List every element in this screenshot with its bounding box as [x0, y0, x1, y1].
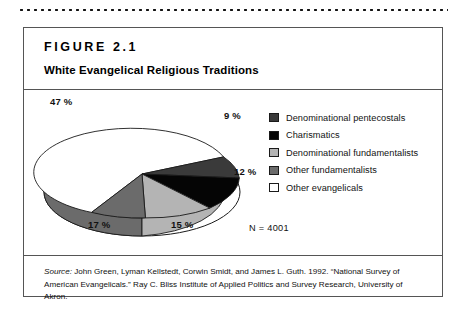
legend-label: Other evangelicals	[286, 183, 363, 193]
legend-swatch-icon	[269, 183, 279, 192]
pie-label-47: 47 %	[50, 96, 72, 107]
pie-label-15: 15 %	[171, 219, 193, 230]
source-area: Source: John Green, Lyman Kellstedt, Cor…	[24, 256, 442, 297]
legend-label: Denominational fundamentalists	[286, 148, 418, 158]
figure-number: FIGURE 2.1	[44, 40, 138, 54]
legend-label: Denominational pentecostals	[286, 113, 405, 123]
legend-item-other-evangelicals: Other evangelicals	[269, 180, 449, 195]
pie-label-9: 9 %	[224, 110, 241, 121]
pie-label-12: 12 %	[234, 166, 256, 177]
pie-top-face	[34, 128, 240, 218]
legend-item-charismatics: Charismatics	[269, 128, 449, 143]
legend-swatch-icon	[269, 113, 279, 122]
legend-label: Charismatics	[286, 130, 340, 140]
legend-item-other-fundamentalists: Other fundamentalists	[269, 163, 449, 178]
pie-chart-svg	[28, 92, 256, 252]
source-citation: John Green, Lyman Kellstedt, Corwin Smid…	[44, 267, 403, 301]
source-label: Source:	[44, 267, 72, 276]
pie-chart: 47 % 9 % 12 % 15 % 17 %	[28, 92, 256, 252]
legend-item-denominational-pentecostals: Denominational pentecostals	[269, 110, 449, 125]
figure-frame: FIGURE 2.1 White Evangelical Religious T…	[23, 27, 443, 297]
pie-label-17: 17 %	[88, 219, 110, 230]
top-dotted-rule	[18, 8, 448, 12]
legend-swatch-icon	[269, 148, 279, 157]
legend-label: Other fundamentalists	[286, 165, 377, 175]
source-note: Source: John Green, Lyman Kellstedt, Cor…	[44, 266, 426, 304]
figure-header: FIGURE 2.1 White Evangelical Religious T…	[24, 28, 442, 90]
legend-item-denominational-fundamentalists: Denominational fundamentalists	[269, 145, 449, 160]
figure-title: White Evangelical Religious Traditions	[44, 64, 259, 76]
legend-swatch-icon	[269, 131, 279, 140]
chart-legend: Denominational pentecostals Charismatics…	[269, 110, 449, 198]
legend-swatch-icon	[269, 166, 279, 175]
sample-size-label: N = 4001	[249, 223, 289, 233]
chart-area: 47 % 9 % 12 % 15 % 17 % Denominational p…	[24, 90, 442, 256]
